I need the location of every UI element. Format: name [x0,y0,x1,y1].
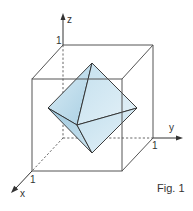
y-tick-label: 1 [152,141,158,151]
y-arrow-icon [176,136,183,141]
figure-caption: Fig. 1 [157,183,185,194]
z-tick-label: 1 [56,36,62,46]
octahedron-in-cube-diagram [0,0,193,211]
z-axis-label: z [67,15,72,25]
x-tick-label: 1 [30,175,36,185]
z-arrow-icon [61,13,66,20]
y-axis-label: y [169,123,174,133]
x-axis-label: x [20,189,25,199]
